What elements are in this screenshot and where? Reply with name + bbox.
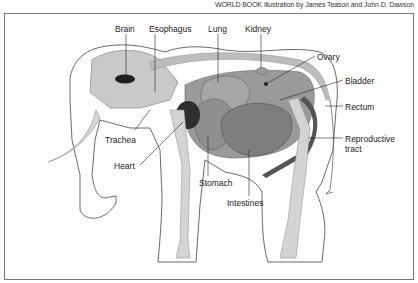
brain-organ (115, 75, 135, 84)
label-ovary: Ovary (317, 52, 340, 62)
label-brain: Brain (115, 24, 135, 34)
label-esophagus: Esophagus (149, 24, 192, 34)
label-lung: Lung (208, 24, 227, 34)
label-rectum: Rectum (345, 102, 374, 112)
label-reproductive-tract-line2: tract (345, 144, 362, 154)
label-heart: Heart (114, 161, 135, 171)
label-reproductive-tract: Reproductive (345, 134, 395, 144)
kidney-organ (256, 68, 268, 75)
label-stomach: Stomach (199, 178, 233, 188)
label-intestines: Intestines (227, 198, 263, 208)
label-trachea: Trachea (105, 135, 136, 145)
label-kidney: Kidney (245, 24, 271, 34)
label-bladder: Bladder (345, 76, 374, 86)
